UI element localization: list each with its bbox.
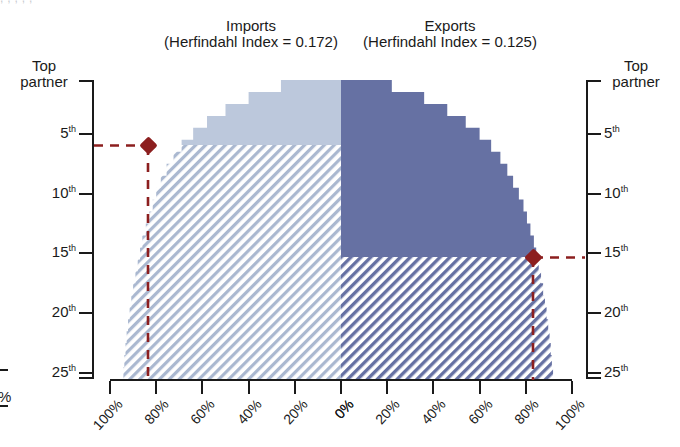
- x-label-60pct: 60%: [452, 396, 495, 441]
- right-axis-corner-label: Top partner: [600, 58, 672, 90]
- right-y-tick: [588, 377, 601, 379]
- left-corner-line2: partner: [8, 74, 80, 90]
- x-label-100pct: 100%: [83, 396, 126, 441]
- right-y-tick: [588, 312, 601, 314]
- right-y-label-20: 20th: [604, 303, 628, 320]
- left-y-tick: [79, 133, 92, 135]
- imports-area: [123, 80, 341, 379]
- x-tick: [432, 381, 434, 394]
- exports-title-block: Exports (Herfindahl Index = 0.125): [352, 18, 548, 50]
- x-tick: [571, 381, 573, 394]
- x-tick: [525, 381, 527, 394]
- exports-area: [341, 80, 553, 379]
- right-y-tick: [588, 133, 601, 135]
- chart-figure: , , , , , Imports (Herfindahl Index = 0.…: [0, 0, 680, 447]
- left-axis-corner-label: Top partner: [8, 58, 80, 90]
- left-corner-line1: Top: [8, 58, 80, 74]
- left-y-tick: [79, 252, 92, 254]
- left-y-tick: [79, 193, 92, 195]
- x-tick: [386, 381, 388, 394]
- left-y-tick: [79, 377, 92, 379]
- x-tick: [155, 381, 157, 394]
- left-y-label-5: 5th: [60, 124, 76, 141]
- left-y-label-20: 20th: [52, 303, 76, 320]
- x-tick: [248, 381, 250, 394]
- butterfly-area-chart: [110, 80, 572, 379]
- x-tick: [109, 381, 111, 394]
- exports-title: Exports: [352, 18, 548, 34]
- right-y-label-15: 15th: [604, 243, 628, 260]
- left-y-axis-spine: [92, 80, 94, 379]
- left-y-label-25: 25th: [52, 363, 76, 380]
- right-y-label-5: 5th: [604, 124, 620, 141]
- left-y-label-10: 10th: [52, 184, 76, 201]
- plot-area: [110, 80, 572, 379]
- left-y-tick: [79, 312, 92, 314]
- x-label-60pct: 60%: [175, 396, 218, 441]
- left-y-tick: [79, 372, 92, 374]
- right-y-axis-spine: [586, 80, 588, 379]
- x-label-20pct: 20%: [360, 396, 403, 441]
- x-label-100pct: 100%: [545, 396, 588, 441]
- x-label-20pct: 20%: [267, 396, 310, 441]
- imports-subtitle: (Herfindahl Index = 0.172): [156, 34, 346, 50]
- right-y-label-25: 25th: [604, 363, 628, 380]
- right-y-label-10: 10th: [604, 184, 628, 201]
- cropped-caption-fragment: , , , , ,: [0, 0, 680, 5]
- right-corner-line2: partner: [600, 74, 672, 90]
- right-top-bracket: [588, 80, 601, 82]
- x-label-80pct: 80%: [498, 396, 541, 441]
- imports-title: Imports: [156, 18, 346, 34]
- x-label-0pct: 0%: [314, 396, 357, 441]
- right-y-tick: [588, 252, 601, 254]
- right-y-tick: [588, 193, 601, 195]
- x-label-40pct: 40%: [406, 396, 449, 441]
- x-tick: [294, 381, 296, 394]
- imports-title-block: Imports (Herfindahl Index = 0.172): [156, 18, 346, 50]
- x-tick: [479, 381, 481, 394]
- exports-subtitle: (Herfindahl Index = 0.125): [352, 34, 548, 50]
- x-tick: [340, 381, 342, 394]
- cropped-percent-glyph: %: [0, 388, 11, 405]
- right-y-tick: [588, 372, 601, 374]
- left-top-bracket: [79, 80, 92, 82]
- x-label-80pct: 80%: [129, 396, 172, 441]
- x-tick: [201, 381, 203, 394]
- right-corner-line1: Top: [600, 58, 672, 74]
- left-y-label-15: 15th: [52, 243, 76, 260]
- x-label-40pct: 40%: [221, 396, 264, 441]
